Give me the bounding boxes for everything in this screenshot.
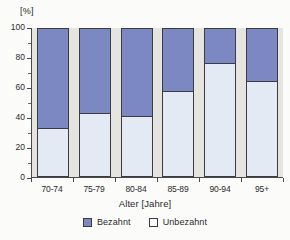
bar-segment-bezahnt[interactable] — [80, 29, 110, 114]
bar-80-84[interactable] — [121, 28, 153, 177]
y-tick-label: 0 — [20, 172, 25, 182]
y-tick-label: 40 — [16, 112, 25, 122]
y-tick-label: 80 — [16, 52, 25, 62]
legend-item-unbezahnt[interactable]: Unbezahnt — [149, 217, 207, 227]
bar-95+[interactable] — [246, 28, 278, 177]
bar-segment-bezahnt[interactable] — [122, 29, 152, 117]
y-axis-unit-label: [%] — [20, 6, 34, 16]
x-tick-mark — [241, 178, 242, 182]
legend-label: Unbezahnt — [163, 217, 207, 227]
x-tick-mark — [199, 178, 200, 182]
x-tick-mark — [31, 178, 32, 182]
legend-swatch-icon — [149, 218, 158, 227]
x-tick-mark — [283, 178, 284, 182]
bar-85-89[interactable] — [162, 28, 194, 177]
x-tick-mark — [115, 178, 116, 182]
bar-segment-bezahnt[interactable] — [163, 29, 193, 92]
bar-segment-bezahnt[interactable] — [247, 29, 277, 82]
bar-group — [32, 28, 283, 177]
bar-segment-bezahnt[interactable] — [38, 29, 68, 129]
x-axis-title: Alter [Jahre] — [0, 198, 290, 209]
chart-legend: BezahntUnbezahnt — [0, 217, 290, 227]
y-axis-ticks: 020406080100 — [0, 28, 31, 178]
bar-segment-unbezahnt[interactable] — [80, 114, 110, 176]
bar-90-94[interactable] — [204, 28, 236, 177]
bar-75-79[interactable] — [79, 28, 111, 177]
x-axis-label-70-74: 70-74 — [31, 184, 73, 194]
x-axis-labels: 70-7475-7980-8485-8990-9495+ — [31, 184, 283, 194]
x-tick-mark — [157, 178, 158, 182]
x-axis-label-90-94: 90-94 — [199, 184, 241, 194]
bar-segment-unbezahnt[interactable] — [122, 117, 152, 176]
bar-segment-unbezahnt[interactable] — [205, 64, 235, 176]
bar-70-74[interactable] — [37, 28, 69, 177]
y-tick-label: 60 — [16, 82, 25, 92]
legend-item-bezahnt[interactable]: Bezahnt — [83, 217, 131, 227]
bar-segment-bezahnt[interactable] — [205, 29, 235, 64]
y-tick-label: 100 — [11, 22, 25, 32]
bar-segment-unbezahnt[interactable] — [163, 92, 193, 176]
plot-area-wrapper — [31, 28, 283, 178]
x-axis-label-85-89: 85-89 — [157, 184, 199, 194]
x-axis-label-75-79: 75-79 — [73, 184, 115, 194]
bar-segment-unbezahnt[interactable] — [247, 82, 277, 176]
bar-segment-unbezahnt[interactable] — [38, 129, 68, 176]
x-axis-label-95+: 95+ — [241, 184, 283, 194]
chart-figure: [%] 020406080100 70-7475-7980-8485-8990-… — [0, 0, 290, 240]
legend-label: Bezahnt — [97, 217, 131, 227]
legend-swatch-icon — [83, 218, 92, 227]
x-tick-mark — [73, 178, 74, 182]
y-tick-label: 20 — [16, 142, 25, 152]
x-axis-label-80-84: 80-84 — [115, 184, 157, 194]
plot-area — [31, 28, 283, 178]
